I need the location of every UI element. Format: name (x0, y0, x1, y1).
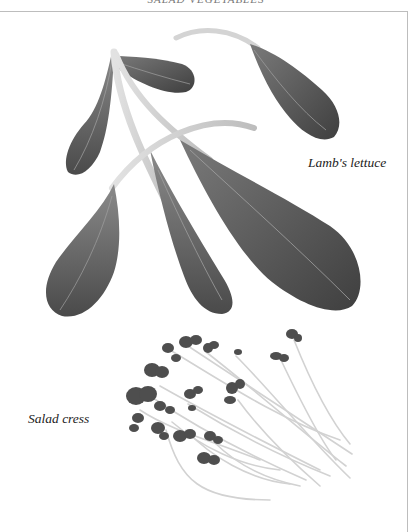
salad-cress-caption: Salad cress (28, 411, 89, 427)
lambs-lettuce-illustration (46, 31, 361, 317)
salad-cress-illustration (126, 329, 352, 500)
lambs-lettuce-caption: Lamb's lettuce (308, 155, 386, 171)
